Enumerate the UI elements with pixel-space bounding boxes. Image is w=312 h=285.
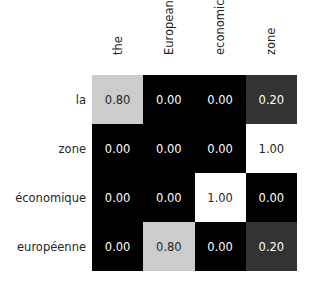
y-tick-label: européenne <box>17 222 86 271</box>
x-tick: economic <box>195 2 246 72</box>
x-tick-label: economic <box>213 0 227 55</box>
heatmap-cell: 1.00 <box>195 173 246 222</box>
attention-heatmap: 0.800.000.000.200.000.000.001.000.000.00… <box>92 75 297 271</box>
heatmap-cell: 0.80 <box>143 222 194 271</box>
y-tick-label: économique <box>15 173 86 222</box>
heatmap-cell: 0.00 <box>195 124 246 173</box>
heatmap-cell: 0.80 <box>92 75 143 124</box>
x-tick: zone <box>246 2 297 72</box>
heatmap-cell: 0.00 <box>143 173 194 222</box>
x-tick-label: zone <box>264 28 278 55</box>
heatmap-cell: 0.00 <box>195 75 246 124</box>
x-tick-label: European <box>162 0 176 55</box>
heatmap-cell: 0.00 <box>92 173 143 222</box>
heatmap-cell: 0.00 <box>246 173 297 222</box>
heatmap-cell: 1.00 <box>246 124 297 173</box>
x-tick-label: the <box>111 36 125 55</box>
x-tick: European <box>143 2 194 72</box>
y-tick-label: zone <box>59 124 86 173</box>
heatmap-cell: 0.00 <box>92 124 143 173</box>
heatmap-cell: 0.20 <box>246 75 297 124</box>
heatmap-cell: 0.20 <box>246 222 297 271</box>
y-tick-label: la <box>76 75 86 124</box>
x-tick: the <box>92 2 143 72</box>
heatmap-cell: 0.00 <box>92 222 143 271</box>
heatmap-cell: 0.00 <box>143 124 194 173</box>
heatmap-cell: 0.00 <box>143 75 194 124</box>
heatmap-cell: 0.00 <box>195 222 246 271</box>
